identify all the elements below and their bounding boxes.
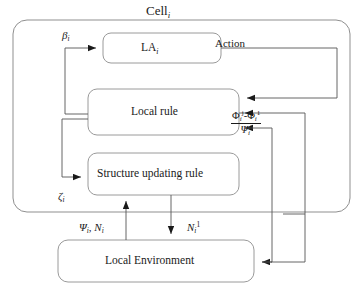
n-sup1-sup: 1 — [196, 220, 200, 229]
psi-sup-denominator: Ψij — [231, 124, 261, 137]
psi-sup-base: Ψ — [241, 124, 248, 135]
phi2-sup: 1 — [257, 109, 261, 117]
zeta-feedback-path — [62, 119, 88, 177]
local-rule-box-label: Local rule — [131, 106, 178, 118]
local-environment-box-label: Local Environment — [105, 255, 194, 267]
signal-zeta-label: ζi — [58, 191, 65, 204]
beta-sub: i — [67, 34, 69, 43]
diagram-canvas: Celli LAi Local rule Structure updating … — [0, 0, 363, 292]
la-label-text: LA — [141, 41, 156, 53]
diagram-title: Celli — [146, 4, 170, 20]
la-box — [103, 33, 221, 63]
diagram-title-sub: i — [168, 10, 170, 20]
signal-action-label: Action — [215, 38, 245, 49]
phi-psi-fraction: Φij-Φi1 Ψij — [231, 110, 261, 138]
psi-n-psi: Ψ — [79, 221, 87, 233]
diagram-title-text: Cell — [146, 3, 168, 18]
env-return-path-a — [271, 160, 272, 262]
psi-n-n: N — [94, 221, 101, 233]
structure-updating-rule-box-label: Structure updating rule — [97, 168, 203, 180]
la-box-label: LAi — [141, 42, 159, 55]
phi1-base: Φ — [232, 110, 240, 121]
diagram-svg — [0, 0, 363, 292]
signal-n-sup1-label: Ni1 — [187, 221, 200, 235]
zeta-sub: i — [62, 195, 64, 204]
signal-phi-psi-label: Φij-Φi1 Ψij — [231, 110, 261, 138]
signal-beta-label: βi — [62, 30, 70, 43]
phi-diff-numerator: Φij-Φi1 — [231, 110, 261, 124]
psi-sup-sup: j — [250, 123, 252, 131]
signal-psi-n-label: Ψi, Ni — [79, 222, 104, 235]
psi-n-n-sub: i — [102, 226, 104, 235]
la-label-sub: i — [156, 47, 158, 56]
action-path — [221, 48, 337, 98]
phi2-base: Φ — [247, 110, 255, 121]
